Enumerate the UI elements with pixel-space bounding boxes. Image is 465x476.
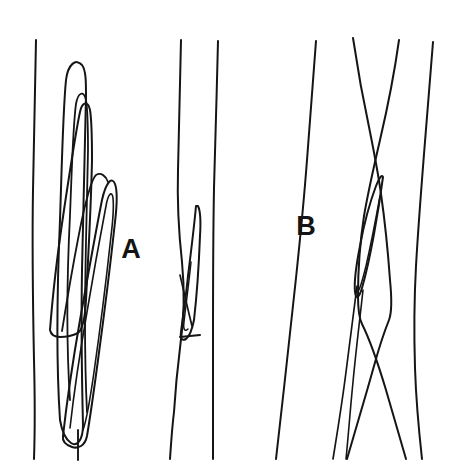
line-drawing-svg: AB [0,0,465,476]
figure-canvas: AB [0,0,465,476]
label-b: B [296,211,316,241]
label-a: A [121,234,141,264]
